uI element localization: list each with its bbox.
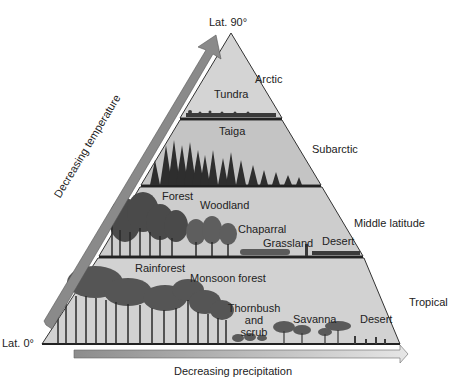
biome-chaparral: Chaparral <box>238 223 286 235</box>
biome-forest: Forest <box>162 190 193 202</box>
apex-label: Lat. 90° <box>209 16 247 28</box>
biome-woodland: Woodland <box>200 199 249 211</box>
zone-middle-latitude: Middle latitude <box>354 217 425 229</box>
biome-tundra: Tundra <box>214 88 248 100</box>
biome-taiga: Taiga <box>219 125 245 137</box>
biome-desert-mid: Desert <box>322 235 354 247</box>
precipitation-axis-label: Decreasing precipitation <box>174 365 292 377</box>
biome-savanna: Savanna <box>293 313 336 325</box>
zone-tropical: Tropical <box>409 296 448 308</box>
biome-thornbush-line1: Thornbush <box>222 302 286 314</box>
biome-monsoon-forest: Monsoon forest <box>190 272 266 284</box>
biome-grassland: Grassland <box>263 237 313 249</box>
zone-subarctic: Subarctic <box>312 143 358 155</box>
biome-thornbush-line3: scrub <box>222 326 286 338</box>
biome-desert-tropical: Desert <box>360 313 392 325</box>
precipitation-arrow <box>74 345 408 363</box>
biome-rainforest: Rainforest <box>135 262 185 274</box>
biome-thornbush-line2: and <box>222 314 286 326</box>
base-label: Lat. 0° <box>2 337 34 349</box>
zone-arctic: Arctic <box>255 73 283 85</box>
